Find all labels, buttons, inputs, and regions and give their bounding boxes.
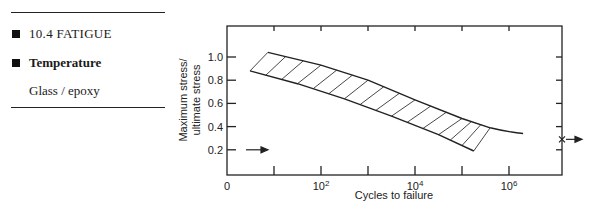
arrow-right-icon <box>575 136 582 142</box>
axis-ticks <box>227 26 562 175</box>
annotation-markers <box>246 136 582 152</box>
y-tick-label: 0.6 <box>208 97 223 109</box>
y-tick-label: 0.8 <box>208 74 223 86</box>
y-tick-label: 1.0 <box>208 51 223 63</box>
chart-frame <box>227 26 562 175</box>
y-axis-label-line1: Maximum stress/ <box>177 58 189 142</box>
x-tick-label: 106 <box>501 179 518 192</box>
y-tick-labels: 0.20.40.60.81.0 <box>208 51 223 156</box>
arrow-right-icon <box>261 147 268 153</box>
scatter-band-bounds <box>250 52 523 151</box>
y-axis-label: Maximum stress/ ultimate stress <box>177 58 202 142</box>
mean-curve-extension <box>490 128 523 134</box>
x-tick-label: 102 <box>313 179 330 192</box>
band-lower-line <box>250 71 474 151</box>
y-tick-label: 0.2 <box>208 144 223 156</box>
y-axis-label-line2: ultimate stress <box>190 64 202 135</box>
y-tick-label: 0.4 <box>208 121 223 133</box>
x-axis-label: Cycles to failure <box>355 189 433 201</box>
x-tick-label: 0 <box>224 180 230 192</box>
fatigue-chart: 0.20.40.60.81.0 0102104106 Cycles to fai… <box>0 0 591 208</box>
scatter-band-hatching <box>250 52 490 151</box>
